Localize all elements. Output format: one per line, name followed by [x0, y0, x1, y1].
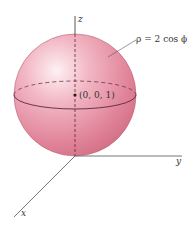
center-point — [73, 93, 76, 96]
x-axis-label: x — [21, 208, 26, 218]
z-axis-label: z — [77, 14, 83, 24]
center-label: (0, 0, 1) — [79, 90, 115, 100]
sphere-diagram: z y x ρ = 2 cos ϕ (0, 0, 1) — [0, 0, 196, 234]
equation-label: ρ = 2 cos ϕ — [136, 34, 187, 44]
y-axis-label: y — [175, 156, 182, 166]
